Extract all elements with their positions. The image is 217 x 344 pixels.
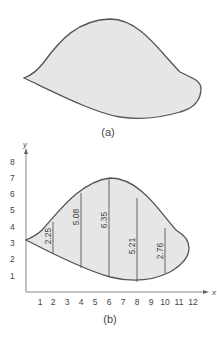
svg-text:4: 4 (10, 222, 15, 232)
svg-text:5: 5 (93, 297, 98, 307)
svg-text:6: 6 (107, 297, 112, 307)
svg-text:1: 1 (38, 297, 43, 307)
x-ticks: 1 2 3 4 5 6 7 8 9 10 11 12 (38, 297, 198, 307)
svg-text:12: 12 (188, 297, 198, 307)
svg-text:2: 2 (10, 254, 15, 264)
svg-text:2.76: 2.76 (155, 242, 165, 259)
svg-text:2: 2 (51, 297, 56, 307)
svg-text:3: 3 (10, 238, 15, 248)
x-axis-label: x (211, 288, 217, 297)
svg-text:1: 1 (10, 271, 15, 281)
svg-text:9: 9 (149, 297, 154, 307)
svg-text:3: 3 (65, 297, 70, 307)
y-axis-label: y (22, 140, 28, 149)
caption-b: (b) (103, 313, 116, 325)
svg-text:11: 11 (175, 297, 184, 307)
svg-text:7: 7 (10, 173, 15, 183)
svg-text:5.21: 5.21 (127, 237, 137, 254)
svg-text:6.35: 6.35 (99, 211, 109, 228)
svg-text:2.25: 2.25 (43, 227, 53, 244)
caption-a: (a) (101, 126, 114, 138)
figure: (a) y x 1 2 3 4 5 6 7 8 1 2 3 4 5 6 7 8 … (0, 0, 217, 344)
svg-text:4: 4 (79, 297, 84, 307)
svg-text:7: 7 (121, 297, 126, 307)
shape-a (24, 19, 201, 118)
y-ticks: 1 2 3 4 5 6 7 8 (10, 157, 15, 281)
svg-text:5: 5 (10, 205, 15, 215)
svg-text:8: 8 (135, 297, 140, 307)
svg-text:5.08: 5.08 (71, 208, 81, 225)
svg-text:8: 8 (10, 157, 15, 167)
svg-text:6: 6 (10, 189, 15, 199)
svg-text:10: 10 (160, 297, 170, 307)
